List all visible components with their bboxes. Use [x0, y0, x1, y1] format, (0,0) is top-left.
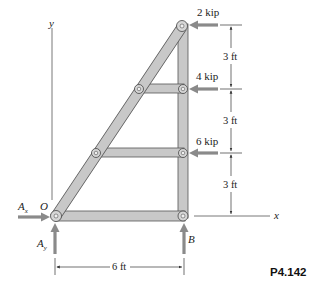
dimension-label-bottom: 3 ft	[223, 179, 237, 190]
reaction-Ax-label: Ax	[17, 200, 29, 215]
member-bottom	[55, 211, 185, 221]
reaction-B-label: B	[188, 233, 195, 245]
member-horizontal-lower	[96, 148, 184, 157]
figure-label: P4.142	[270, 266, 306, 278]
load-6kip-arrow	[189, 149, 218, 158]
truss-members	[51, 24, 188, 221]
load-2kip-label: 2 kip	[197, 6, 220, 18]
load-4kip-arrow	[189, 85, 218, 94]
member-vertical-right	[178, 24, 188, 218]
truss-diagram: y x 2 kip	[0, 0, 316, 295]
dimension-label-top: 3 ft	[223, 51, 237, 62]
load-2kip-arrow	[189, 21, 218, 30]
reaction-Ay-label: Ay	[36, 237, 48, 252]
member-diagonal	[51, 24, 186, 220]
reaction-Ax-arrow	[18, 213, 50, 222]
load-6kip-label: 6 kip	[196, 135, 219, 147]
origin-label: O	[40, 200, 48, 212]
y-axis-label: y	[48, 17, 54, 29]
reaction-Ay-arrow	[51, 223, 60, 254]
dimension-label-middle: 3 ft	[223, 115, 237, 126]
x-axis-label: x	[273, 209, 279, 221]
dimension-label-horizontal: 6 ft	[112, 261, 126, 272]
load-4kip-label: 4 kip	[196, 70, 219, 82]
